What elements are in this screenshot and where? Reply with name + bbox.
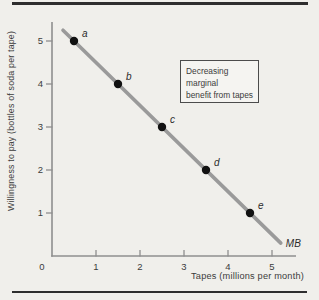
data-point-c — [158, 123, 166, 131]
chart: 01234512345MBabcde — [0, 0, 319, 300]
y-tick-label: 2 — [38, 164, 43, 175]
x-tick-label: 3 — [181, 261, 186, 272]
data-point-e — [246, 209, 254, 217]
y-tick-label: 4 — [38, 78, 43, 89]
annotation-line: Decreasing — [186, 65, 258, 77]
bottom-rule — [12, 291, 307, 293]
annotation-box: Decreasing marginal benefit from tapes — [180, 60, 259, 103]
x-axis-title: Tapes (millions per month) — [191, 271, 304, 281]
x-tick-label: 2 — [137, 261, 142, 272]
data-point-label-a: a — [82, 28, 88, 39]
data-point-label-e: e — [258, 200, 264, 211]
y-tick-label: 3 — [38, 121, 43, 132]
data-point-label-b: b — [126, 71, 132, 82]
annotation-line: benefit from tapes — [186, 89, 258, 101]
x-tick-label: 4 — [225, 261, 230, 272]
data-point-a — [70, 37, 78, 45]
x-tick-label: 5 — [269, 261, 274, 272]
y-tick-label: 5 — [38, 35, 43, 46]
mb-curve-label: MB — [286, 238, 301, 249]
data-point-d — [202, 166, 210, 174]
annotation-line: marginal — [186, 77, 258, 89]
data-point-label-d: d — [214, 157, 220, 168]
marginal-benefit-figure: Willingness to pay (bottles of soda per … — [0, 0, 319, 300]
data-point-label-c: c — [170, 114, 175, 125]
y-tick-label: 1 — [38, 207, 43, 218]
x-tick-label: 0 — [39, 261, 44, 272]
data-point-b — [114, 80, 122, 88]
x-tick-label: 1 — [93, 261, 98, 272]
